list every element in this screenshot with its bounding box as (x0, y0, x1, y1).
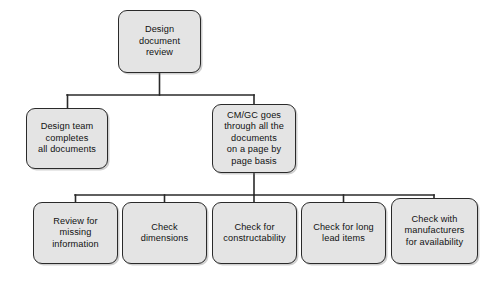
node-check-with-manufacturers-for-availability[interactable]: Check with manufacturers for availabilit… (391, 198, 478, 264)
node-design-document-review[interactable]: Design document review (118, 10, 201, 73)
node-check-for-constructability[interactable]: Check for constructability (212, 202, 297, 264)
node-label: Check dimensions (123, 222, 206, 245)
node-label: Check with manufacturers for availabilit… (392, 214, 477, 248)
node-design-team-completes-all-documents[interactable]: Design team completes all documents (26, 108, 108, 169)
node-label: Design team completes all documents (27, 121, 107, 155)
node-review-for-missing-information[interactable]: Review for missing information (33, 202, 118, 264)
node-label: Check for long lead items (302, 222, 385, 245)
node-label: Review for missing information (34, 216, 117, 250)
node-check-dimensions[interactable]: Check dimensions (122, 202, 207, 264)
node-label: Check for constructability (213, 222, 296, 245)
node-cmgc-goes-through-all-documents[interactable]: CM/GC goes through all the documents on … (212, 104, 296, 173)
node-label: Design document review (119, 24, 200, 58)
node-check-for-long-lead-items[interactable]: Check for long lead items (301, 202, 386, 264)
flowchart-canvas: Design document review Design team compl… (0, 0, 498, 287)
node-label: CM/GC goes through all the documents on … (213, 110, 295, 167)
